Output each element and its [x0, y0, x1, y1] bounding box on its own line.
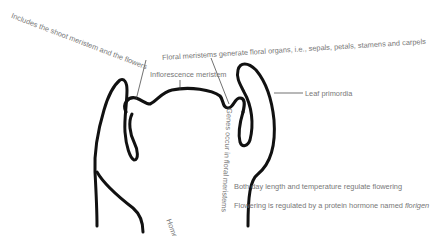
- label-leaf-primordia: Leaf primordia: [305, 90, 352, 97]
- label-inflorescence-meristem: Inflorescence meristem: [150, 71, 226, 78]
- label-day-length: Both day length and temperature regulate…: [234, 183, 402, 190]
- left-leaf-outline: [95, 79, 138, 226]
- label-florigen-term: florigen: [405, 201, 429, 210]
- shoot-apex-diagram: Includes the shoot meristem and the flow…: [0, 0, 445, 236]
- label-florigen-prefix: Flowering is regulated by a protein horm…: [234, 201, 405, 210]
- label-florigen: Flowering is regulated by a protein horm…: [234, 202, 429, 209]
- stem-left-outline: [97, 172, 143, 232]
